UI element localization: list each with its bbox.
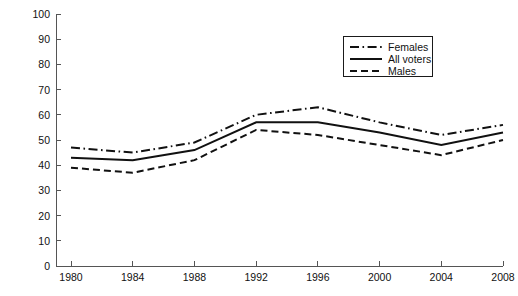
legend-swatch-icon bbox=[349, 54, 383, 64]
legend-item-all-voters: All voters bbox=[349, 53, 426, 65]
legend-item-females: Females bbox=[349, 41, 426, 53]
y-tick-label: 0 bbox=[24, 261, 50, 272]
y-tick-label: 90 bbox=[24, 34, 50, 45]
y-tick-label: 60 bbox=[24, 110, 50, 121]
legend-item-males: Males bbox=[349, 65, 426, 77]
x-tick-label: 1980 bbox=[49, 272, 93, 283]
series-line-males bbox=[71, 130, 503, 173]
y-tick-label: 50 bbox=[24, 135, 50, 146]
x-tick-label: 1988 bbox=[172, 272, 216, 283]
y-tick-label: 80 bbox=[24, 59, 50, 70]
data-series-lines bbox=[71, 107, 503, 173]
x-tick-label: 1992 bbox=[234, 272, 278, 283]
legend-swatch-icon bbox=[349, 66, 383, 76]
y-tick-label: 70 bbox=[24, 85, 50, 96]
x-tick-label: 1996 bbox=[296, 272, 340, 283]
legend-label: All voters bbox=[388, 54, 431, 65]
y-tick-label: 100 bbox=[24, 9, 50, 20]
x-tick-label: 1984 bbox=[111, 272, 155, 283]
chart-legend: FemalesAll votersMales bbox=[343, 36, 433, 77]
legend-label: Females bbox=[388, 42, 428, 53]
legend-label: Males bbox=[388, 66, 416, 77]
x-tick-label: 2004 bbox=[419, 272, 463, 283]
chart-container: Percent Voting Democratic 01020304050607… bbox=[0, 0, 518, 296]
x-tick-label: 2008 bbox=[481, 272, 518, 283]
plot-area bbox=[0, 0, 518, 296]
y-tick-label: 40 bbox=[24, 160, 50, 171]
y-tick-label: 20 bbox=[24, 211, 50, 222]
axis-tick-marks bbox=[56, 14, 503, 266]
y-tick-label: 30 bbox=[24, 185, 50, 196]
y-tick-label: 10 bbox=[24, 236, 50, 247]
x-tick-label: 2000 bbox=[358, 272, 402, 283]
legend-swatch-icon bbox=[349, 42, 383, 52]
series-line-females bbox=[71, 107, 503, 152]
axis-lines bbox=[56, 14, 503, 266]
